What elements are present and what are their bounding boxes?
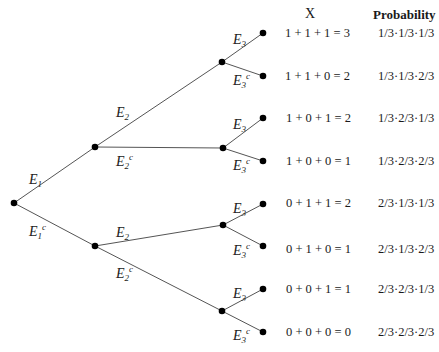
edge-e1c xyxy=(14,203,95,246)
label-e3c: E3c xyxy=(232,71,250,90)
outcome-probability: 2/3·2/3·2/3 xyxy=(378,325,434,340)
header-x: X xyxy=(305,6,315,22)
outcome-probability: 1/3·2/3·2/3 xyxy=(378,154,434,169)
label-e2: E2 xyxy=(115,225,130,242)
outcome-probability: 2/3·1/3·1/3 xyxy=(378,196,434,211)
label-e3c: E3c xyxy=(232,241,250,260)
edge-e2-lower xyxy=(95,225,223,246)
root-node xyxy=(11,200,18,207)
node-e1c xyxy=(92,243,99,250)
node-e1 xyxy=(92,144,99,151)
label-e3: E3 xyxy=(232,117,247,134)
node-l2 xyxy=(219,308,226,315)
leaf-node xyxy=(260,30,267,37)
leaf-node xyxy=(260,158,267,165)
node-l2 xyxy=(220,145,227,152)
outcome-x: 0 + 0 + 0 = 0 xyxy=(286,325,351,340)
edge-e3c xyxy=(223,225,263,246)
outcome-x: 0 + 0 + 1 = 1 xyxy=(286,282,351,297)
node-l2 xyxy=(220,222,227,229)
label-e3c: E3c xyxy=(232,326,250,345)
outcome-probability: 2/3·1/3·2/3 xyxy=(378,242,434,257)
label-e3: E3 xyxy=(232,32,247,49)
label-e3: E3 xyxy=(232,201,247,218)
outcome-x: 1 + 0 + 0 = 1 xyxy=(286,154,351,169)
edge-e3c xyxy=(222,311,263,332)
outcome-x: 1 + 1 + 1 = 3 xyxy=(285,26,350,41)
leaf-node xyxy=(260,115,267,122)
edge-e3c xyxy=(223,148,263,161)
header-probability: Probability xyxy=(373,7,436,23)
edge-e1 xyxy=(14,147,95,203)
outcome-x: 1 + 1 + 0 = 2 xyxy=(285,69,350,84)
edge-e3c xyxy=(222,62,263,76)
outcome-x: 1 + 0 + 1 = 2 xyxy=(286,111,351,126)
leaf-node xyxy=(260,243,267,250)
outcome-x: 0 + 1 + 1 = 2 xyxy=(286,196,351,211)
label-e1: E1 xyxy=(28,172,42,189)
outcome-probability: 1/3·2/3·1/3 xyxy=(378,111,434,126)
edge-e2c-lower xyxy=(95,246,222,311)
label-e2c: E2c xyxy=(115,264,133,283)
node-l2 xyxy=(219,59,226,66)
edge-e2c-upper xyxy=(95,147,223,148)
outcome-probability: 1/3·1/3·2/3 xyxy=(378,69,434,84)
label-e1c: E1c xyxy=(28,222,46,241)
leaf-node xyxy=(260,201,267,208)
outcome-x: 0 + 1 + 0 = 1 xyxy=(286,242,351,257)
label-e2c: E2c xyxy=(115,152,133,171)
outcome-probability: 2/3·2/3·1/3 xyxy=(378,282,434,297)
probability-tree: E1 E1c E2 E2c E2 E2c E3 E3c E3 E3c E3 E3… xyxy=(0,0,439,352)
leaf-node xyxy=(260,73,267,80)
label-e2: E2 xyxy=(115,105,130,122)
label-e3: E3 xyxy=(232,286,247,303)
outcome-probability: 1/3·1/3·1/3 xyxy=(378,26,434,41)
label-e3c: E3c xyxy=(232,156,250,175)
leaf-node xyxy=(260,286,267,293)
leaf-node xyxy=(260,329,267,336)
edge-e2-upper xyxy=(95,62,222,147)
